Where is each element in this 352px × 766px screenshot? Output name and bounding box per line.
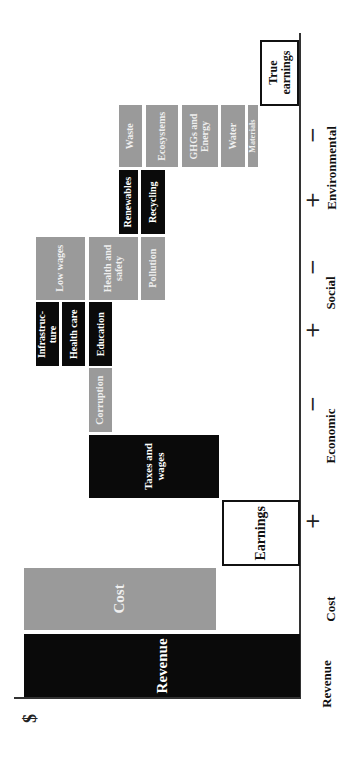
tick-social-minus: − bbox=[300, 259, 324, 276]
bar-label: ture bbox=[47, 325, 58, 343]
bar-label: wages bbox=[153, 452, 165, 480]
bar-label: Health care bbox=[68, 309, 79, 359]
category-economic: Economic bbox=[323, 409, 339, 464]
bar-label: Education bbox=[95, 312, 106, 356]
bar-label: Water bbox=[228, 123, 239, 150]
tick-environmental-minus: − bbox=[300, 127, 324, 144]
category-environmental: Environmental bbox=[324, 126, 340, 210]
bar-water: Water bbox=[221, 105, 245, 167]
bar-materials: Materials bbox=[248, 105, 258, 167]
bar-label: Cost bbox=[112, 584, 128, 613]
bar-label: GHGs and bbox=[189, 113, 200, 159]
category-social: Social bbox=[323, 276, 339, 309]
bar-infrastructure: Infrastruc-ture bbox=[36, 302, 59, 366]
bar-label: Ecosystems bbox=[157, 112, 168, 161]
category-revenue: Revenue bbox=[319, 660, 335, 708]
bar-taxes-and-wages: Taxes andwages bbox=[89, 435, 219, 498]
tick-economic-plus: + bbox=[300, 513, 324, 530]
bar-label: earnings bbox=[279, 51, 293, 95]
y-axis-label: $ bbox=[20, 714, 41, 723]
bar-health-care: Health care bbox=[62, 302, 85, 366]
bar-true-earnings: Trueearnings bbox=[260, 40, 299, 106]
bar-waste: Waste bbox=[119, 105, 142, 167]
bar-revenue: Revenue bbox=[24, 634, 300, 697]
bar-label: Renewables bbox=[123, 177, 134, 228]
bar-health-and-safety: Health andsafety bbox=[89, 237, 138, 300]
tick-environmental-plus: + bbox=[300, 192, 324, 209]
bar-education: Education bbox=[89, 302, 112, 366]
tick-economic-minus: − bbox=[300, 396, 324, 413]
bar-low-wages: Low wages bbox=[36, 237, 85, 300]
bar-pollution: Pollution bbox=[141, 237, 165, 300]
bar-label: Waste bbox=[125, 123, 136, 149]
bar-label: Pollution bbox=[148, 249, 159, 288]
bar-label: Earnings bbox=[254, 506, 269, 560]
bar-label: Taxes and bbox=[141, 443, 153, 490]
y-axis-line bbox=[14, 697, 301, 699]
bar-recycling: Recycling bbox=[141, 170, 165, 234]
bar-label: Energy bbox=[199, 120, 210, 151]
bar-label: safety bbox=[112, 256, 123, 281]
category-cost: Cost bbox=[323, 596, 339, 621]
bar-label: Health and bbox=[102, 245, 113, 293]
bar-renewables: Renewables bbox=[119, 170, 138, 234]
bar-label: Corruption bbox=[95, 376, 106, 425]
bar-ecosystems: Ecosystems bbox=[146, 105, 178, 167]
tick-social-plus: + bbox=[300, 322, 324, 339]
bar-cost: Cost bbox=[24, 568, 216, 630]
bar-label: Recycling bbox=[148, 181, 159, 223]
bar-label: Infrastruc- bbox=[36, 310, 47, 357]
bar-earnings: Earnings bbox=[222, 500, 300, 566]
bar-ghgs-and-energy: GHGs andEnergy bbox=[182, 105, 218, 167]
bar-label: True bbox=[266, 61, 280, 85]
bar-label: Low wages bbox=[55, 245, 66, 292]
bar-label: Revenue bbox=[154, 638, 170, 693]
bar-corruption: Corruption bbox=[89, 368, 112, 432]
bar-label: Materials bbox=[249, 120, 257, 153]
